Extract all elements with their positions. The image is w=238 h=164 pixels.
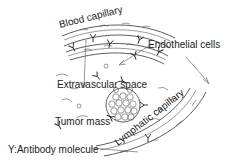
extravascular-space-label: Extravascular space: [57, 79, 147, 90]
lymphatic-capillary-label: Lymphatic capillary: [112, 87, 185, 148]
antibody-legend: Y:Antibody molecule: [8, 144, 99, 155]
tumor-antibody-diagram: Blood capillary Endothelial cells Extrav…: [0, 0, 238, 164]
antibody-icon: [140, 102, 148, 108]
blood-capillary-label: Blood capillary: [58, 4, 124, 30]
tumor-mass: [106, 87, 140, 122]
antibody-icon: [68, 43, 77, 53]
antibody-icon: [130, 51, 138, 61]
endothelial-cells-label: Endothelial cells: [148, 39, 220, 50]
tumor-mass-label: Tumor mass: [55, 116, 110, 127]
